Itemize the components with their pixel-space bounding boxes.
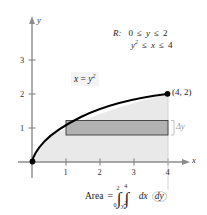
point-4-2 bbox=[165, 91, 171, 97]
figure-container: y x 1 2 3 4 1 2 3 R: 0 ≤ y ≤ 2 y2 ≤ x ≤ … bbox=[0, 0, 207, 215]
region-spec-line2-rel1: ≤ bbox=[142, 41, 147, 50]
region-spec-line1-rel2: ≤ bbox=[154, 29, 159, 38]
inner-integral: ∫ 4 y2 bbox=[125, 188, 133, 205]
delta-y-label: Δy bbox=[176, 122, 185, 131]
differential-dx: dx bbox=[139, 192, 148, 202]
outer-integral-upper: 2 bbox=[117, 185, 120, 191]
region-spec-line2-right: 4 bbox=[168, 41, 173, 50]
region-spec-line2-left: y2 bbox=[131, 39, 138, 50]
y-axis-arrow bbox=[29, 16, 35, 24]
area-expression: Area = ∫ 2 0 ∫ 4 y2 dx dy bbox=[85, 188, 167, 205]
x-axis-label: x bbox=[192, 156, 196, 165]
inner-integral-upper: 4 bbox=[124, 183, 130, 189]
area-equals: = bbox=[107, 192, 112, 202]
region-spec-line2-var: x bbox=[151, 41, 155, 50]
point-label-4-2: (4, 2) bbox=[172, 88, 192, 97]
ytick-label-2: 2 bbox=[20, 90, 24, 99]
region-spec-line1-right: 2 bbox=[163, 29, 168, 38]
outer-integral-lower: 0 bbox=[114, 202, 117, 208]
region-spec-name: R: bbox=[113, 29, 122, 38]
region-spec-line2-rel2: ≤ bbox=[159, 41, 164, 50]
delta-y-bracket bbox=[171, 121, 174, 136]
xtick-label-2: 2 bbox=[98, 168, 102, 177]
x-axis-arrow bbox=[182, 159, 190, 165]
plot-svg bbox=[0, 0, 207, 215]
region-spec-line1-left: 0 bbox=[129, 29, 134, 38]
ytick-label-3: 3 bbox=[20, 56, 24, 65]
differential-dy: dy bbox=[152, 191, 167, 203]
region-spec-line2-exp: 2 bbox=[135, 39, 138, 45]
inner-integral-lower: y2 bbox=[121, 200, 127, 209]
region-spec: R: 0 ≤ y ≤ 2 y2 ≤ x ≤ 4 bbox=[113, 29, 172, 50]
curve-label: x = y2 bbox=[71, 72, 99, 86]
origin-point bbox=[30, 159, 36, 165]
y-axis-label: y bbox=[37, 16, 41, 25]
representative-strip bbox=[66, 121, 168, 136]
region-spec-line1-rel1: ≤ bbox=[137, 29, 142, 38]
ytick-label-1: 1 bbox=[20, 124, 24, 133]
xtick-label-1: 1 bbox=[64, 168, 68, 177]
xtick-label-3: 3 bbox=[132, 168, 136, 177]
region-spec-line1-var: y bbox=[146, 29, 150, 38]
area-word: Area bbox=[85, 192, 103, 202]
xtick-label-4: 4 bbox=[166, 168, 170, 177]
